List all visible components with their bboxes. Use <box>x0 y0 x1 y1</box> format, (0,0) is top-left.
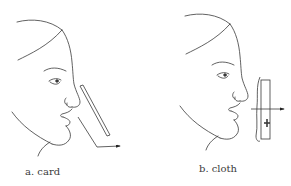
panel-a-face <box>12 20 80 156</box>
panel-b-face <box>180 14 248 150</box>
caption-cloth: b. cloth <box>199 163 237 174</box>
card-icon <box>80 85 110 136</box>
caption-card: a. card <box>25 166 60 177</box>
illustration <box>0 0 291 186</box>
figure: a. card b. cloth <box>0 0 291 186</box>
